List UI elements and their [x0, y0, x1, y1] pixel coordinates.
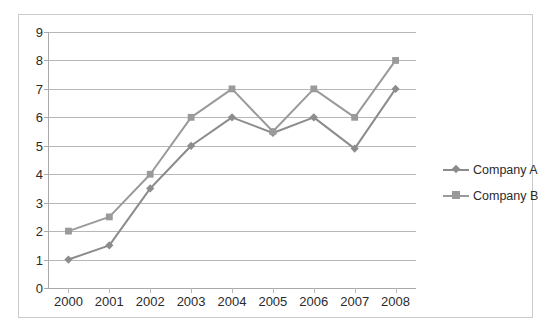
- square-marker-icon: [147, 171, 154, 178]
- y-tick-label: 8: [21, 54, 43, 67]
- chart-legend: Company A Company B: [443, 157, 529, 209]
- legend-item-company-b[interactable]: Company B: [443, 183, 529, 209]
- x-tick-label: 2000: [47, 295, 89, 308]
- square-marker-icon: [229, 85, 236, 92]
- y-tick-mark: [44, 146, 49, 147]
- x-tick-mark: [191, 288, 192, 293]
- square-marker-icon: [188, 114, 195, 121]
- y-tick-label: 9: [21, 26, 43, 39]
- square-marker-icon: [392, 57, 399, 64]
- x-tick-label: 2001: [88, 295, 130, 308]
- square-marker-icon: [443, 190, 469, 202]
- y-tick-mark: [44, 89, 49, 90]
- y-tick-label: 0: [21, 282, 43, 295]
- y-axis-tick-labels: 0123456789: [19, 32, 43, 288]
- x-tick-mark: [273, 288, 274, 293]
- y-tick-label: 7: [21, 83, 43, 96]
- x-axis-tick-labels: 200020012002200320042005200620072008: [48, 295, 416, 315]
- square-marker-icon: [106, 213, 113, 220]
- y-tick-mark: [44, 60, 49, 61]
- x-tick-label: 2003: [170, 295, 212, 308]
- x-tick-label: 2007: [334, 295, 376, 308]
- diamond-marker-icon: [64, 255, 72, 263]
- y-tick-label: 6: [21, 111, 43, 124]
- x-tick-label: 2002: [129, 295, 171, 308]
- x-tick-label: 2008: [375, 295, 417, 308]
- y-tick-label: 5: [21, 140, 43, 153]
- legend-item-company-a[interactable]: Company A: [443, 157, 529, 183]
- series-lines-layer: [48, 32, 416, 289]
- chart-frame: 0123456789 20002001200220032004200520062…: [18, 14, 533, 318]
- legend-item-label: Company B: [473, 189, 538, 203]
- y-tick-mark: [44, 117, 49, 118]
- square-marker-icon: [269, 128, 276, 135]
- x-tick-mark: [150, 288, 151, 293]
- y-tick-label: 2: [21, 225, 43, 238]
- x-tick-mark: [396, 288, 397, 293]
- legend-item-label: Company A: [473, 163, 538, 177]
- y-tick-mark: [44, 231, 49, 232]
- x-tick-mark: [68, 288, 69, 293]
- square-marker-icon: [65, 228, 72, 235]
- series-company-b: [65, 57, 399, 234]
- legend-square-marker: [452, 191, 460, 199]
- y-tick-label: 3: [21, 197, 43, 210]
- y-tick-mark: [44, 203, 49, 204]
- x-tick-label: 2006: [293, 295, 335, 308]
- square-marker-icon: [310, 85, 317, 92]
- y-tick-label: 1: [21, 254, 43, 267]
- legend-diamond-marker: [452, 165, 460, 173]
- square-marker-icon: [351, 114, 358, 121]
- y-tick-mark: [44, 288, 49, 289]
- x-tick-mark: [314, 288, 315, 293]
- y-tick-mark: [44, 174, 49, 175]
- diamond-marker-icon: [443, 164, 469, 176]
- x-tick-mark: [232, 288, 233, 293]
- series-company-a: [64, 85, 399, 264]
- y-tick-label: 4: [21, 168, 43, 181]
- x-tick-mark: [355, 288, 356, 293]
- y-tick-mark: [44, 260, 49, 261]
- x-tick-label: 2005: [252, 295, 294, 308]
- x-tick-mark: [109, 288, 110, 293]
- x-tick-label: 2004: [211, 295, 253, 308]
- y-tick-mark: [44, 32, 49, 33]
